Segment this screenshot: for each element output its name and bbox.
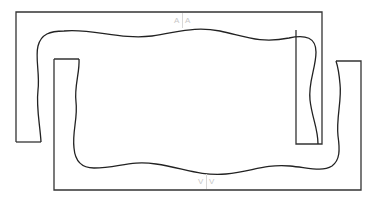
top-label-divider xyxy=(182,13,183,28)
bottom-label-right: V xyxy=(209,178,214,186)
bottom-label-divider xyxy=(206,174,207,189)
top-frame xyxy=(16,12,322,144)
inner-wavy-shape-lower xyxy=(74,59,341,174)
inner-wavy-shape xyxy=(37,29,318,144)
bottom-label-left: V xyxy=(198,178,203,186)
top-label-left: A xyxy=(174,17,179,25)
top-label-right: A xyxy=(185,17,190,25)
diagram-canvas xyxy=(0,0,379,204)
